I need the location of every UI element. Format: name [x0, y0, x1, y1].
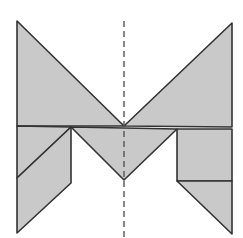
large-triangle-right [124, 23, 232, 127]
small-triangle-right-bottom [177, 181, 232, 234]
diagram-canvas [0, 0, 243, 238]
square-right [177, 129, 232, 181]
large-triangle-left [17, 21, 124, 126]
tangram-m-diagram [0, 0, 243, 238]
